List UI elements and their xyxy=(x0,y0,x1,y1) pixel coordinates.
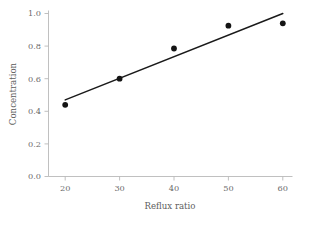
x-axis-title: Reflux ratio xyxy=(144,201,195,211)
y-tick-label: 1.0 xyxy=(28,8,41,18)
figure-background xyxy=(0,0,318,225)
x-tick-label: 30 xyxy=(114,183,124,193)
scatter-plot-canvas: 0.0 0.2 0.4 0.6 0.8 1.0 20 30 40 50 60 R… xyxy=(0,0,318,225)
y-tick-label: 0.8 xyxy=(28,41,41,51)
y-tick-label: 0.0 xyxy=(28,171,41,181)
data-point-marker xyxy=(226,23,232,29)
y-tick-label: 0.4 xyxy=(28,106,41,116)
y-tick-label: 0.2 xyxy=(28,139,41,149)
y-tick-label: 0.6 xyxy=(28,74,41,84)
data-point-marker xyxy=(62,102,68,108)
chart-figure: 0.0 0.2 0.4 0.6 0.8 1.0 20 30 40 50 60 R… xyxy=(0,0,318,225)
x-tick-label: 20 xyxy=(60,183,70,193)
data-point-marker xyxy=(117,76,123,82)
data-point-marker xyxy=(280,20,286,26)
x-tick-label: 50 xyxy=(223,183,233,193)
x-tick-label: 40 xyxy=(169,183,179,193)
x-tick-label: 60 xyxy=(278,183,288,193)
y-axis-title: Concentration xyxy=(8,62,18,125)
data-point-marker xyxy=(171,46,177,52)
